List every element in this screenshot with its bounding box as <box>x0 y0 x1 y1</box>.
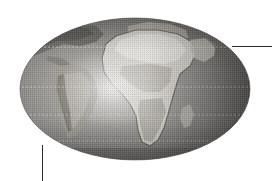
figure-canvas: Grayscale halftone elliptical world map … <box>0 0 272 181</box>
leader-line-bottom <box>42 145 43 181</box>
world-globe <box>0 0 272 181</box>
leader-line-right <box>232 46 272 47</box>
globe-disc <box>20 18 250 162</box>
halftone-texture-coarse <box>20 18 250 160</box>
